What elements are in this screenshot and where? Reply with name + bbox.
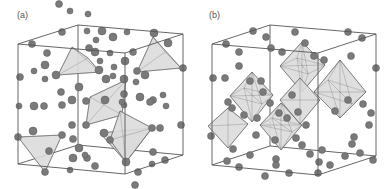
box-edge [78, 25, 183, 34]
atom-sphere [58, 89, 65, 96]
atom-sphere [70, 136, 77, 143]
atom-sphere [273, 162, 280, 169]
atom-sphere [247, 152, 254, 159]
atom-sphere [292, 29, 299, 36]
panel-a-label: (a) [17, 10, 28, 20]
atom-sphere [223, 41, 230, 48]
atom-sphere [307, 151, 314, 158]
atom-sphere [133, 79, 139, 85]
atom-sphere [267, 100, 274, 107]
atom-sphere [119, 99, 125, 105]
atom-sphere [157, 125, 164, 132]
panel-b-octahedral-structure: (b) [196, 0, 392, 189]
atom-sphere [52, 71, 60, 79]
atom-sphere [122, 158, 130, 166]
box-edge [212, 146, 270, 165]
atom-sphere [316, 159, 323, 166]
atom-sphere [101, 96, 109, 104]
atom-sphere [254, 115, 261, 122]
atom-sphere [150, 149, 157, 156]
atom-sphere [111, 64, 117, 70]
box-edge [18, 25, 78, 44]
atom-sphere [357, 150, 364, 157]
atom-sphere [56, 1, 63, 8]
atom-sphere [102, 75, 110, 83]
atom-sphere [75, 144, 83, 152]
atom-sphere [147, 99, 154, 106]
atom-sphere [286, 170, 293, 177]
atom-sphere [229, 105, 236, 112]
atom-sphere [258, 78, 265, 85]
atom-sphere [93, 37, 99, 43]
atom-sphere [83, 98, 90, 105]
atom-sphere [124, 29, 130, 35]
atom-sphere [121, 91, 128, 98]
atom-sphere [110, 73, 116, 79]
atom-sphere [91, 48, 99, 56]
atom-sphere [100, 129, 108, 137]
atom-sphere [241, 112, 248, 119]
atom-sphere [247, 78, 254, 85]
atom-sphere [303, 122, 310, 129]
atom-sphere [46, 148, 53, 155]
atom-sphere [319, 147, 326, 154]
atom-sphere [134, 68, 141, 75]
atom-sphere [42, 169, 49, 176]
atom-sphere [67, 167, 73, 173]
atom-sphere [224, 158, 231, 165]
box-edge [270, 25, 376, 34]
box-edge [125, 155, 183, 174]
atom-sphere [16, 103, 22, 109]
atom-sphere [302, 40, 309, 47]
atom-sphere [31, 68, 37, 74]
atom-sphere [163, 103, 169, 109]
atom-sphere [109, 33, 117, 41]
box-edge [212, 25, 270, 44]
atom-sphere [160, 92, 166, 98]
atom-sphere [92, 163, 99, 170]
atom-sphere [327, 162, 334, 169]
atom-sphere [321, 57, 328, 64]
atom-sphere [107, 50, 113, 56]
atom-sphere [82, 152, 88, 158]
atom-sphere [97, 58, 103, 64]
atom-sphere [69, 122, 76, 129]
atom-sphere [85, 11, 91, 17]
atom-sphere [236, 63, 243, 70]
atom-sphere [236, 49, 243, 56]
atom-sphere [107, 137, 114, 144]
atom-sphere [30, 102, 38, 110]
atom-sphere [59, 132, 66, 139]
atom-sphere [29, 41, 36, 48]
atom-sphere [225, 99, 232, 106]
atom-sphere [293, 135, 300, 142]
atom-sphere [95, 66, 103, 74]
atom-sphere [149, 125, 156, 132]
atom-sphere [276, 110, 283, 117]
atom-sphere [120, 75, 128, 83]
atom-sphere [263, 34, 270, 41]
atom-sphere [69, 154, 77, 162]
atom-sphere [360, 101, 367, 108]
atom-sphere [368, 110, 375, 117]
atom-sphere [68, 96, 76, 104]
atom-sphere [230, 146, 237, 153]
atom-sphere [75, 83, 83, 91]
atom-sphere [41, 103, 48, 110]
atom-sphere [67, 8, 73, 14]
atom-sphere [366, 122, 373, 129]
atom-sphere [268, 45, 275, 52]
atom-sphere [272, 137, 279, 144]
panel-b-label: (b) [209, 10, 220, 20]
atom-sphere [132, 182, 139, 189]
atom-sphere [44, 50, 51, 57]
atom-sphere [136, 93, 144, 101]
atom-sphere [210, 75, 217, 82]
atom-sphere [41, 61, 49, 69]
atom-sphere [98, 27, 106, 35]
atom-sphere [141, 71, 149, 79]
atom-sphere [289, 92, 296, 99]
atom-sphere [332, 108, 339, 115]
atom-sphere [253, 132, 260, 139]
atom-sphere [83, 122, 90, 129]
